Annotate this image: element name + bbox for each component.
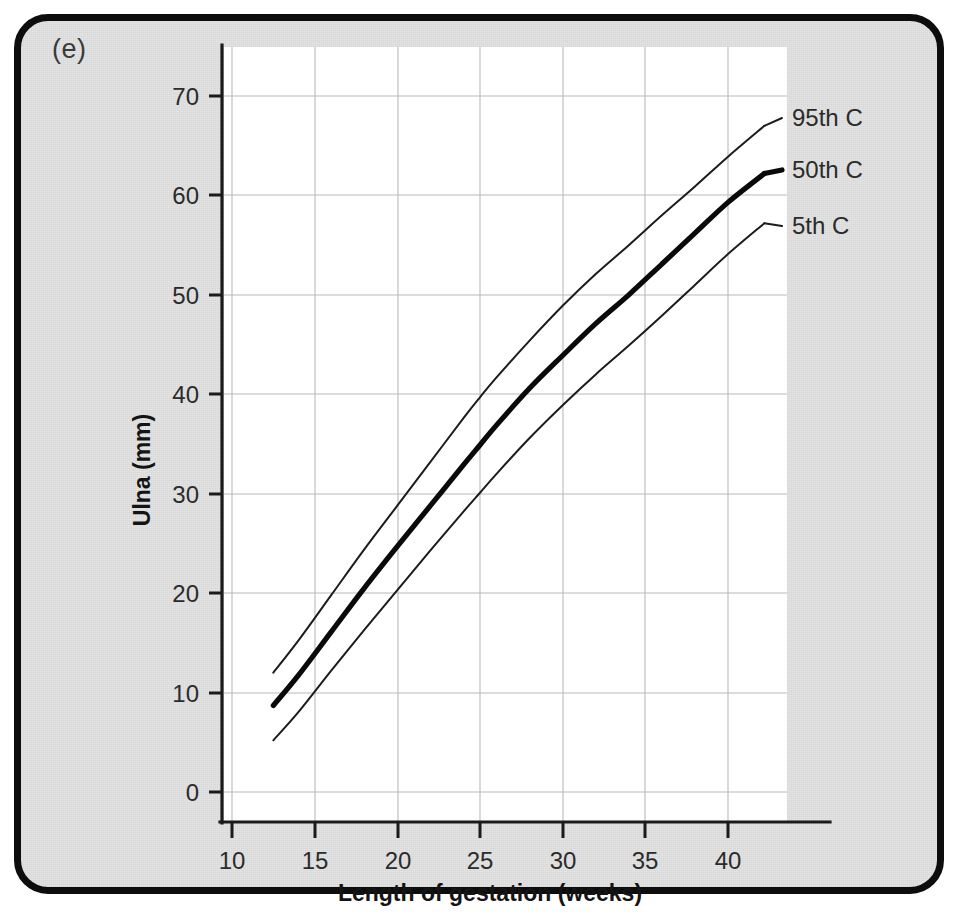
y-tick-label-10: 10	[172, 680, 199, 707]
y-tick-label-60: 60	[172, 182, 199, 209]
ulna-growth-chart: 70 60 50 40 30 20 10 0 10 15 20 25 30 35…	[0, 0, 970, 921]
x-tick-label-25: 25	[467, 847, 494, 874]
series-label-50th-c: 50th C	[792, 156, 863, 183]
plot-area	[224, 47, 787, 822]
y-tick-label-70: 70	[172, 83, 199, 110]
figure-root: (e)	[0, 0, 970, 921]
y-tick-label-50: 50	[172, 282, 199, 309]
x-tick-label-10: 10	[219, 847, 246, 874]
y-tick-label-20: 20	[172, 580, 199, 607]
x-tick-labels: 10 15 20 25 30 35 40	[219, 847, 742, 874]
y-tick-label-30: 30	[172, 481, 199, 508]
x-tick-label-20: 20	[385, 847, 412, 874]
series-labels: 95th C 50th C 5th C	[792, 104, 863, 239]
y-tick-labels: 70 60 50 40 30 20 10 0	[172, 83, 199, 806]
series-label-95th-c: 95th C	[792, 104, 863, 131]
series-label-5th-c: 5th C	[792, 212, 849, 239]
y-tickmarks	[209, 96, 222, 792]
leader-line-50th-c	[764, 170, 782, 174]
x-tick-label-40: 40	[715, 847, 742, 874]
y-axis-title: Ulna (mm)	[129, 414, 155, 526]
y-tick-label-0: 0	[186, 779, 199, 806]
x-axis-title: Length of gestation (weeks)	[338, 880, 642, 906]
x-tick-label-15: 15	[302, 847, 329, 874]
x-tick-label-35: 35	[632, 847, 659, 874]
x-tickmarks	[232, 822, 728, 838]
y-tick-label-40: 40	[172, 381, 199, 408]
x-tick-label-30: 30	[550, 847, 577, 874]
